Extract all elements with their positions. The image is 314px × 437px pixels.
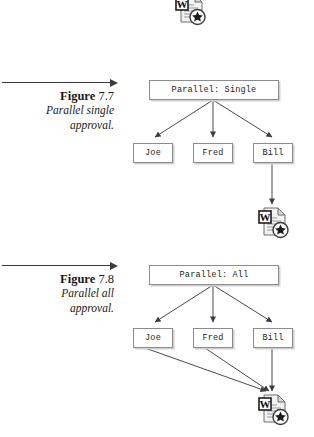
figure-7-8-approver-fred[interactable]: Fred	[193, 328, 233, 348]
figure-7-8-approver-bill[interactable]: Bill	[253, 328, 293, 348]
figure-page: W Figure 7.7 Parallel single approval.	[0, 0, 314, 437]
figure-7-8-approver-joe[interactable]: Joe	[133, 328, 173, 348]
figure-7-8-root-node[interactable]: Parallel: All	[149, 265, 279, 285]
figure-7-8-approver-joe-label: Joe	[145, 333, 161, 343]
star-circle-icon	[273, 410, 288, 425]
figure-7-8-diagram: Parallel: All Joe Fred Bill	[0, 0, 314, 437]
figure-7-8-root-label: Parallel: All	[180, 270, 249, 280]
figure-7-8-approver-bill-label: Bill	[262, 333, 283, 343]
figure-7-8-approver-fred-label: Fred	[202, 333, 223, 343]
svg-text:W: W	[260, 398, 271, 410]
figure-7-8-word-document-icon: W	[256, 392, 290, 426]
figure-7-8-connectors	[0, 0, 314, 437]
